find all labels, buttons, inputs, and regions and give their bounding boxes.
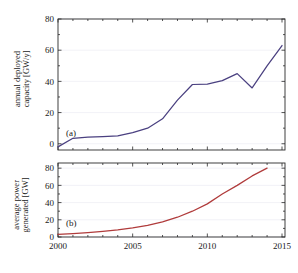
panel-a-group: 020406080(a) xyxy=(45,14,285,150)
xtick-label: 2000 xyxy=(49,241,68,251)
ytick-label: 40 xyxy=(45,77,55,87)
ytick-label: 80 xyxy=(45,163,55,173)
data-series-line xyxy=(58,168,267,234)
panel-tag: (a) xyxy=(66,128,76,138)
panel-tag: (b) xyxy=(66,218,77,228)
ytick-label: 20 xyxy=(45,215,55,225)
chart-svg: 020406080(a) 0204060802000200520102015(b… xyxy=(0,0,298,273)
ytick-label: 40 xyxy=(45,198,55,208)
xtick-label: 2015 xyxy=(273,241,292,251)
ytick-label: 60 xyxy=(45,45,55,55)
xtick-label: 2010 xyxy=(198,241,217,251)
ytick-label: 0 xyxy=(50,139,55,149)
data-series-line xyxy=(58,46,282,147)
ytick-label: 20 xyxy=(45,108,55,118)
panel-b-group: 0204060802000200520102015(b) xyxy=(45,163,292,251)
xtick-label: 2005 xyxy=(124,241,143,251)
ytick-label: 60 xyxy=(45,181,55,191)
ytick-label: 80 xyxy=(45,14,55,24)
figure-container: annual deployed capacity [GW/y] average … xyxy=(0,0,298,273)
